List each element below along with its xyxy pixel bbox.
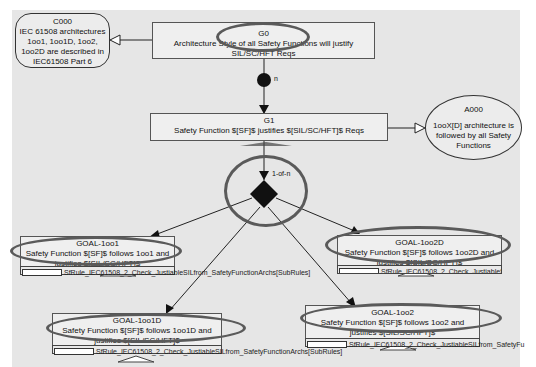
context-arrow-icon	[110, 35, 120, 45]
subrule-bar-1oo1d[interactable]: SfRule_IEC61508_2_Check_JustiableSILfrom…	[52, 345, 222, 354]
context-node-c000[interactable]: C000 IEC 61508 architectures 1oo1, 1oo1D…	[15, 13, 110, 68]
goal-id: G1	[153, 116, 385, 126]
subrule-label: SfRule_IEC61508_2_Check_JustiableSILfrom…	[381, 268, 502, 274]
progress-bar	[339, 268, 379, 274]
progress-bar	[307, 341, 347, 348]
highlight-ellipse	[300, 303, 502, 333]
highlight-circle	[224, 155, 308, 227]
subrule-label: SfRule_IEC61508_2_Check_JustiableSILfrom…	[96, 348, 342, 355]
assumption-node-a000[interactable]: A000 1ooX[D] architecture is followed by…	[425, 95, 522, 160]
highlight-ellipse	[10, 236, 182, 266]
progress-bar	[54, 348, 94, 355]
assumption-text: 1ooX[D] architecture is followed by all …	[432, 121, 515, 151]
subrule-bar-1oo1[interactable]: SfRule_IEC61508_2_Check_JustiableSILfrom…	[20, 266, 175, 275]
goal-node-g1[interactable]: G1 Safety Function $[SF]$ justifies $[SI…	[150, 113, 388, 141]
subrule-label: SfRule_IEC61508_2_Check_JustiableSILfrom…	[349, 341, 525, 348]
multiplicity-label: n	[274, 75, 278, 82]
subrule-bar-1oo2[interactable]: SfRule_IEC61508_2_Check_JustiableSILfrom…	[305, 338, 480, 347]
subrule-label: SfRule_IEC61508_2_Check_JustiableSILfrom…	[64, 269, 310, 276]
assumption-id: A000	[464, 105, 483, 115]
highlight-ellipse	[46, 313, 246, 343]
context-id: C000	[18, 17, 107, 27]
context-text: IEC 61508 architectures 1oo1, 1oo1D, 1oo…	[18, 27, 107, 67]
subrule-bar-1oo2d[interactable]: SfRule_IEC61508_2_Check_JustiableSILfrom…	[337, 265, 502, 274]
choice-label: 1-of-n	[272, 170, 290, 177]
multiplicity-dot-icon	[257, 73, 271, 87]
goal-text: Safety Function $[SF]$ justifies $[SIL/S…	[153, 126, 385, 136]
progress-bar	[22, 269, 62, 276]
assumption-arrow-icon	[415, 123, 425, 133]
highlight-ellipse	[216, 22, 310, 52]
highlight-ellipse	[325, 226, 511, 264]
